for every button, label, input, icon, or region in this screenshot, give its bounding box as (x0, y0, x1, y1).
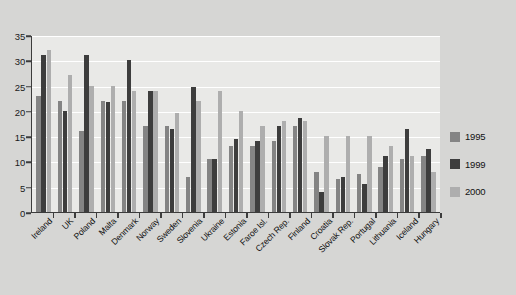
bar-1999-croatia (319, 192, 323, 212)
bar-group (332, 36, 353, 212)
bars-layer (32, 36, 440, 212)
bar-chart: 05101520253035 IrelandUKPolandMaltaDenma… (0, 0, 516, 295)
x-tick-label-poland: Poland (72, 216, 97, 241)
bar-1999-slovak-rep (341, 177, 345, 212)
bar-1999-hungary (426, 149, 430, 212)
bar-group (119, 36, 140, 212)
y-tick-label: 35 (15, 31, 25, 42)
plot-area (31, 36, 440, 213)
legend-item-2000: 2000 (450, 186, 485, 197)
bar-2000-ireland (47, 50, 51, 212)
bar-2000-finland (303, 121, 307, 212)
bar-group (97, 36, 118, 212)
bar-1999-faroe-isl (255, 141, 259, 212)
bar-1995-slovak-rep (336, 179, 340, 212)
bar-2000-slovak-rep (346, 136, 350, 212)
bar-1999-sweden (170, 129, 174, 212)
bar-1995-lithuania (378, 167, 382, 213)
bar-1999-uk (63, 111, 67, 212)
bar-group (375, 36, 396, 212)
bar-1995-croatia (314, 172, 318, 212)
bar-group (354, 36, 375, 212)
x-tick-label-ireland: Ireland (29, 216, 54, 241)
bar-1995-sweden (165, 126, 169, 212)
bar-1995-portugal (357, 174, 361, 212)
y-tick-label: 0 (20, 208, 25, 219)
bar-group (76, 36, 97, 212)
bar-2000-faroe-isl (260, 126, 264, 212)
y-tick-label: 5 (20, 182, 25, 193)
legend-label-2000: 2000 (465, 186, 485, 197)
legend-swatch-1995 (450, 132, 460, 142)
bar-2000-denmark (132, 91, 136, 212)
y-tick-label: 20 (15, 106, 25, 117)
bar-group (268, 36, 289, 212)
bar-2000-hungary (431, 172, 435, 212)
y-tick-label: 30 (15, 56, 25, 67)
bar-2000-sweden (175, 113, 179, 212)
x-tick-label-ukraine: Ukraine (199, 216, 226, 243)
bar-2000-uk (68, 75, 72, 212)
bar-2000-norway (153, 91, 157, 212)
x-axis-labels: IrelandUKPolandMaltaDenmarkNorwaySwedenS… (31, 216, 440, 292)
bar-1995-czech-rep (272, 141, 276, 212)
bar-1995-faroe-isl (250, 146, 254, 212)
bar-1999-norway (148, 91, 152, 212)
bar-1995-ukraine (207, 159, 211, 212)
bar-1999-denmark (127, 60, 131, 212)
bar-1999-portugal (362, 184, 366, 212)
bar-group (396, 36, 417, 212)
bar-1995-hungary (421, 156, 425, 212)
y-axis: 05101520253035 (0, 0, 31, 213)
bar-group (33, 36, 54, 212)
bar-group (225, 36, 246, 212)
bar-1995-uk (58, 101, 62, 212)
x-tick-mark (440, 213, 442, 218)
bar-group (161, 36, 182, 212)
x-tick-label-uk: UK (60, 216, 75, 231)
bar-2000-poland (89, 86, 93, 212)
bar-group (418, 36, 439, 212)
bar-group (54, 36, 75, 212)
legend-label-1995: 1995 (465, 131, 485, 142)
bar-2000-czech-rep (282, 121, 286, 212)
bar-group (140, 36, 161, 212)
bar-2000-malta (111, 86, 115, 212)
bar-1995-norway (143, 126, 147, 212)
bar-1999-iceland (405, 129, 409, 212)
x-tick-label-finland: Finland (286, 216, 312, 242)
bar-2000-iceland (410, 156, 414, 212)
bar-2000-slovenia (196, 101, 200, 212)
bar-1999-lithuania (383, 156, 387, 212)
bar-1995-estonia (229, 146, 233, 212)
y-tick-label: 10 (15, 157, 25, 168)
bar-1995-finland (293, 126, 297, 212)
bar-2000-estonia (239, 111, 243, 212)
legend-swatch-2000 (450, 187, 460, 197)
bar-1999-malta (106, 102, 110, 212)
bar-1999-estonia (234, 139, 238, 212)
bar-1995-poland (79, 131, 83, 212)
y-tick-label: 15 (15, 132, 25, 143)
bar-2000-portugal (367, 136, 371, 212)
bar-2000-ukraine (218, 91, 222, 212)
y-tick-label: 25 (15, 81, 25, 92)
bar-1999-finland (298, 118, 302, 212)
bar-1995-malta (101, 101, 105, 212)
bar-group (204, 36, 225, 212)
bar-1999-ireland (41, 55, 45, 212)
bar-1999-czech-rep (277, 126, 281, 212)
bar-1999-slovenia (191, 87, 195, 212)
legend-swatch-1999 (450, 159, 460, 169)
legend: 199519992000 (450, 131, 485, 214)
bar-group (290, 36, 311, 212)
legend-item-1999: 1999 (450, 159, 485, 170)
legend-label-1999: 1999 (465, 159, 485, 170)
bar-1999-poland (84, 55, 88, 212)
legend-item-1995: 1995 (450, 131, 485, 142)
bar-group (183, 36, 204, 212)
bar-1995-iceland (400, 159, 404, 212)
bar-1995-ireland (36, 96, 40, 212)
bar-group (311, 36, 332, 212)
bar-1999-ukraine (212, 159, 216, 212)
